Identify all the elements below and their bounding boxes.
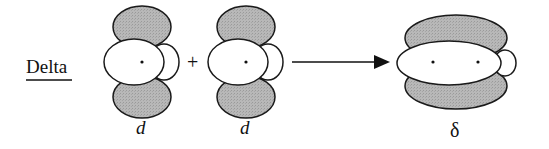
delta-bond-label: δ [450, 119, 459, 141]
orbital-1-label: d [136, 117, 146, 138]
arrow-icon [292, 55, 390, 69]
plus-operator: + [187, 51, 198, 73]
nucleus-dot-1 [431, 60, 434, 63]
d-orbital-1 [104, 6, 179, 118]
white-lobe-center [208, 39, 268, 85]
white-lobe-center [104, 39, 164, 85]
nucleus-dot [244, 60, 247, 63]
nucleus-dot-2 [476, 60, 479, 63]
diagram-title: Delta [26, 56, 68, 77]
white-lobe-center [397, 41, 501, 85]
d-orbital-2 [208, 6, 283, 118]
delta-bond-diagram: Delta d + d δ [0, 0, 549, 149]
orbital-2-label: d [240, 117, 250, 138]
delta-bond-orbital [397, 15, 516, 109]
nucleus-dot [140, 60, 143, 63]
